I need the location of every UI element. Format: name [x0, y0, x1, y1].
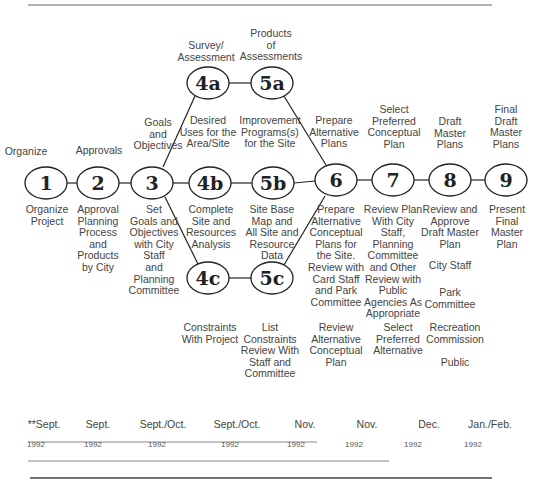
label-above-5a: Products of Assessments — [240, 28, 302, 63]
timeline-year-7: 1992 — [404, 440, 422, 449]
node-4a: 4a — [187, 67, 229, 99]
node-3: 3 — [131, 167, 173, 199]
timeline-month-3: Sept./Oct. — [140, 418, 187, 430]
timeline-month-2: Sept. — [86, 418, 111, 430]
svg-text:8: 8 — [443, 169, 456, 191]
label-bottom-8-public: Public — [441, 357, 470, 369]
svg-text:5b: 5b — [260, 172, 287, 194]
label-below-1: Organize Project — [26, 204, 69, 227]
timeline-year-8: 1992 — [464, 440, 482, 449]
svg-text:4b: 4b — [197, 172, 224, 194]
timeline-month-5: Nov. — [295, 418, 316, 430]
node-7: 7 — [372, 164, 414, 196]
node-5c: 5c — [251, 262, 293, 294]
label-bottom-7: Select Preferred Alternative — [373, 322, 423, 357]
timeline-month-8: Jan./Feb. — [468, 418, 512, 430]
label-below-8-park-committee: Park Committee — [425, 287, 476, 310]
label-below-6: Prepare Alternative Conceptual Plans for… — [308, 204, 364, 308]
node-4b: 4b — [189, 167, 231, 199]
timeline-month-1: **Sept. — [28, 418, 61, 430]
label-above-9: Final Draft Master Plans — [490, 104, 522, 150]
timeline-year-5: 1992 — [287, 440, 305, 449]
label-above-1: Organize — [5, 146, 48, 158]
label-above-6: Prepare Alternative Plans — [309, 115, 359, 150]
svg-text:1: 1 — [39, 172, 52, 194]
svg-text:9: 9 — [499, 169, 512, 191]
node-1: 1 — [25, 167, 67, 199]
label-below-7: Review Plan With City Staff, Planning Co… — [364, 204, 422, 320]
label-below-8: Review and Approve Draft Master Plan — [421, 204, 479, 250]
timeline-year-6: 1992 — [345, 440, 363, 449]
node-4c: 4c — [187, 262, 229, 294]
label-bottom-8-recreation: Recreation Commission — [426, 322, 484, 345]
label-above-4b: Desired Uses for the Area/Site — [180, 115, 237, 150]
svg-text:6: 6 — [329, 169, 342, 191]
node-8: 8 — [429, 164, 471, 196]
timeline-month-4: Sept./Oct. — [214, 418, 261, 430]
label-below-9: Present Final Master Plan — [489, 204, 525, 250]
timeline-month-7: Dec. — [418, 418, 440, 430]
timeline-month-6: Nov. — [357, 418, 378, 430]
label-bottom-4c: Constraints With Project — [182, 322, 239, 345]
label-above-7: Select Preferred Conceptual Plan — [367, 104, 420, 150]
timeline-year-1: 1992 — [27, 440, 45, 449]
node-9: 9 — [485, 164, 527, 196]
node-6: 6 — [315, 164, 357, 196]
label-above-3: Goals and Objectives — [133, 117, 182, 152]
svg-text:3: 3 — [145, 172, 158, 194]
label-below-8-city-staff: City Staff — [429, 260, 471, 272]
timeline-year-4: 1992 — [221, 440, 239, 449]
svg-text:7: 7 — [386, 169, 399, 191]
label-below-2: Approval Planning Process and Products b… — [77, 204, 118, 274]
label-above-8: Draft Master Plans — [434, 116, 466, 151]
node-2: 2 — [77, 167, 119, 199]
svg-text:5a: 5a — [259, 72, 285, 94]
node-5a: 5a — [251, 67, 293, 99]
node-5b: 5b — [252, 167, 294, 199]
label-above-5b: Improvement Programs(s) for the Site — [239, 115, 300, 150]
label-below-4b: Complete Site and Resources Analysis — [186, 204, 236, 250]
timeline-year-3: 1992 — [148, 440, 166, 449]
label-bottom-6: Review Alternative Conceptual Plan — [309, 322, 362, 368]
label-above-4a: Survey/ Assessment — [177, 40, 234, 63]
timeline-year-2: 1992 — [84, 440, 102, 449]
label-below-5b: Site Base Map and All Site and Resource … — [245, 204, 298, 262]
label-above-2: Approvals — [76, 145, 123, 157]
svg-text:5c: 5c — [260, 267, 285, 289]
label-below-3: Set Goals and Objectives with City Staff… — [129, 204, 180, 297]
label-bottom-5c: List Constraints Review With Staff and C… — [241, 322, 299, 380]
svg-text:2: 2 — [91, 172, 104, 194]
svg-text:4a: 4a — [195, 72, 221, 94]
svg-text:4c: 4c — [196, 267, 221, 289]
